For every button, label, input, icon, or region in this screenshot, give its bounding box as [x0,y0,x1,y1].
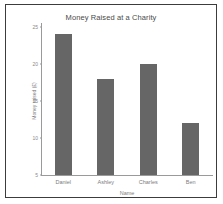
y-tick-mark [40,175,42,176]
x-axis-title: Name [42,190,212,196]
x-tick-label: Charles [139,179,158,185]
bar [55,34,72,175]
y-tick-mark [40,27,42,28]
plot-area: 252015105 [42,27,212,175]
chart-screenshot: Money Raised at a Charity Money raised (… [0,0,223,204]
x-tick-label: Ashley [97,179,114,185]
y-tick-label: 10 [32,135,38,141]
bar-series [42,27,212,175]
y-tick-label: 25 [32,24,38,30]
y-tick-label: 15 [32,98,38,104]
y-tick-label: 5 [35,172,38,178]
x-tick-label: Ben [186,179,196,185]
figure-frame: Money Raised at a Charity Money raised (… [5,4,217,198]
y-tick-label: 20 [32,61,38,67]
x-axis-line [41,175,213,176]
x-tick-label: Daniel [55,179,71,185]
bar [140,64,157,175]
chart-title: Money Raised at a Charity [6,13,216,22]
y-tick-mark [40,138,42,139]
bar [97,79,114,175]
y-tick-mark [40,101,42,102]
bar [182,123,199,175]
y-tick-mark [40,64,42,65]
